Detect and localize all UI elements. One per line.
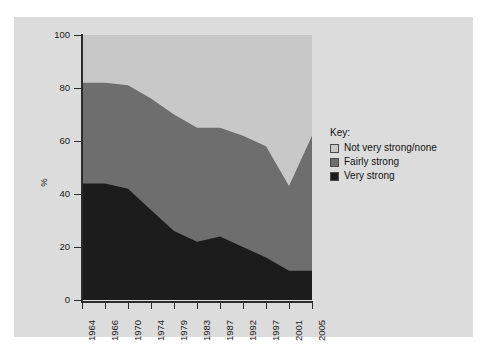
y-tick-mark [74, 194, 81, 195]
x-tick-label: 2001 [293, 320, 304, 341]
x-tick-mark [243, 303, 244, 309]
y-tick-label: 0 [38, 294, 70, 305]
stacked-area-plot [82, 35, 312, 300]
x-tick-label: 1979 [178, 320, 189, 341]
legend-item-label: Very strong [344, 170, 395, 182]
x-tick-label: 1983 [201, 320, 212, 341]
y-tick-mark [74, 141, 81, 142]
y-tick-mark [74, 247, 81, 248]
x-tick-label: 2005 [316, 320, 327, 341]
legend-item: Not very strong/none [330, 142, 437, 154]
y-tick-label: 100 [38, 29, 70, 40]
legend-swatch-icon [330, 158, 339, 167]
x-tick-mark [197, 303, 198, 309]
legend-item-label: Not very strong/none [344, 142, 437, 154]
x-tick-label: 1970 [132, 320, 143, 341]
x-tick-mark [128, 303, 129, 309]
x-tick-mark [174, 303, 175, 309]
legend-swatch-icon [330, 144, 339, 153]
legend-items: Not very strong/noneFairly strongVery st… [330, 142, 437, 182]
area-chart-svg [82, 35, 312, 300]
x-tick-label: 1992 [247, 320, 258, 341]
x-tick-label: 1966 [109, 320, 120, 341]
legend-title: Key: [330, 127, 437, 138]
x-tick-mark [220, 303, 221, 309]
chart-figure-panel: % 020406080100 1964196619701974197919831… [14, 17, 473, 337]
y-tick-label: 20 [38, 241, 70, 252]
legend-swatch-icon [330, 172, 339, 181]
x-tick-mark [151, 303, 152, 309]
x-tick-mark [105, 303, 106, 309]
chart-legend: Key: Not very strong/noneFairly strongVe… [330, 127, 437, 184]
x-tick-mark [312, 303, 313, 309]
y-axis-title: % [38, 178, 49, 186]
y-tick-label: 60 [38, 135, 70, 146]
x-tick-label: 1964 [86, 320, 97, 341]
x-tick-label: 1997 [270, 320, 281, 341]
y-tick-mark [74, 35, 81, 36]
y-axis-line [81, 34, 83, 302]
legend-item-label: Fairly strong [344, 156, 399, 168]
legend-item: Very strong [330, 170, 437, 182]
y-tick-label: 40 [38, 188, 70, 199]
y-tick-mark [74, 300, 81, 301]
x-tick-mark [82, 303, 83, 309]
x-tick-label: 1987 [224, 320, 235, 341]
x-tick-label: 1974 [155, 320, 166, 341]
legend-item: Fairly strong [330, 156, 437, 168]
x-tick-mark [266, 303, 267, 309]
y-tick-mark [74, 88, 81, 89]
y-tick-label: 80 [38, 82, 70, 93]
x-tick-mark [289, 303, 290, 309]
